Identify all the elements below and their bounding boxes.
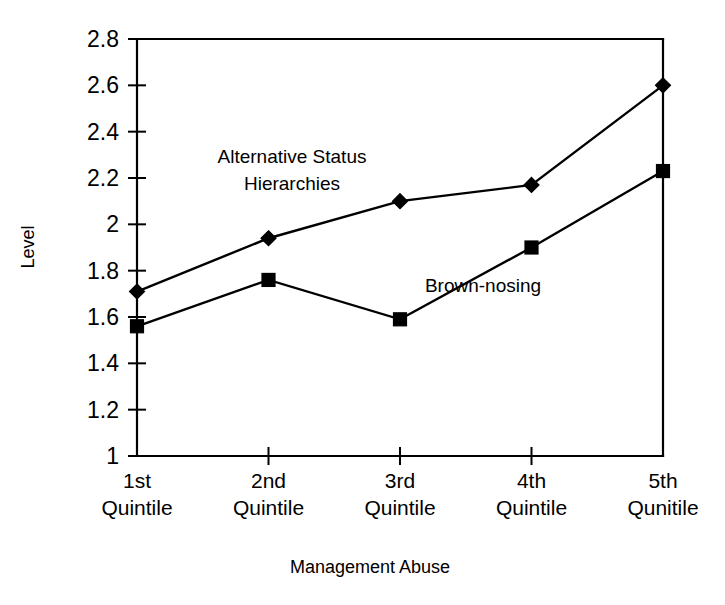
x-tick-label: Qunitile (627, 496, 698, 519)
data-point-square (525, 241, 538, 254)
data-point-square (394, 313, 407, 326)
data-point-diamond (393, 194, 408, 209)
x-tick-label: 4th (517, 469, 546, 492)
series-annotation-label: Hierarchies (244, 173, 340, 194)
series-annotation-label: Alternative Status (218, 146, 367, 167)
y-tick-label: 1.4 (87, 350, 119, 376)
x-tick-label: 3rd (385, 469, 415, 492)
series-layer (130, 78, 671, 333)
chart-page: 11.21.41.61.822.22.42.62.8 1stQuintile2n… (0, 0, 725, 605)
y-axis-tick-labels: 11.21.41.61.822.22.42.62.8 (87, 26, 119, 469)
y-tick-label: 2 (106, 211, 119, 237)
y-tick-label: 1 (106, 443, 119, 469)
y-tick-label: 1.6 (87, 304, 119, 330)
data-point-diamond (130, 284, 145, 299)
x-tick-label: Quintile (233, 496, 304, 519)
series-line (137, 85, 663, 291)
y-tick-label: 1.2 (87, 397, 119, 423)
x-tick-label: 1st (123, 469, 151, 492)
data-point-square (657, 165, 670, 178)
series-annotation-label: Brown-nosing (425, 275, 541, 296)
y-tick-label: 1.8 (87, 258, 119, 284)
y-axis-title: Level (18, 225, 38, 268)
series-1 (130, 78, 671, 299)
y-tick-label: 2.2 (87, 165, 119, 191)
x-tick-label: 5th (648, 469, 677, 492)
series-2 (131, 165, 670, 333)
x-tick-label: Quintile (364, 496, 435, 519)
y-tick-label: 2.4 (87, 119, 119, 145)
x-tick-label: 2nd (251, 469, 286, 492)
line-chart: 11.21.41.61.822.22.42.62.8 1stQuintile2n… (0, 0, 725, 605)
data-point-diamond (261, 231, 276, 246)
x-axis-tick-labels: 1stQuintile2ndQuintile3rdQuintile4thQuin… (101, 469, 698, 519)
y-tick-label: 2.6 (87, 72, 119, 98)
x-tick-label: Quintile (496, 496, 567, 519)
x-tick-label: Quintile (101, 496, 172, 519)
data-point-square (262, 273, 275, 286)
x-axis-title: Management Abuse (290, 557, 450, 577)
data-point-square (131, 320, 144, 333)
plot-frame (137, 39, 663, 456)
y-tick-label: 2.8 (87, 26, 119, 52)
